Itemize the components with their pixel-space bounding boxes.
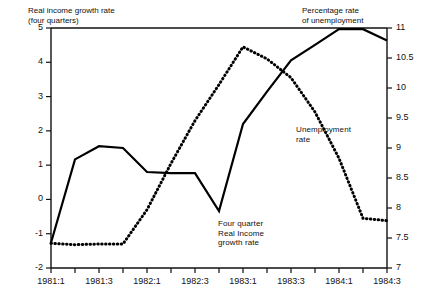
x-axis-tick-label: 1982:3	[175, 276, 215, 286]
unemployment-series-label: Unemployment rate	[296, 125, 351, 144]
right-axis-tick-label: 7.5	[396, 232, 409, 242]
chart-container: Real income growth rate (four quarters) …	[0, 0, 428, 306]
left-axis-tick-label: 2	[38, 125, 43, 135]
left-axis-tick-label: 4	[38, 56, 43, 66]
right-axis-tick-label: 7	[396, 262, 401, 272]
left-axis-tick-label: 5	[38, 22, 43, 32]
x-axis-tick-label: 1982:1	[127, 276, 167, 286]
left-axis-tick-label: -1	[35, 228, 43, 238]
x-axis-tick-label: 1984:1	[319, 276, 359, 286]
left-axis-tick-label: 0	[38, 193, 43, 203]
left-axis-tick-label: 3	[38, 91, 43, 101]
x-axis-tick-label: 1981:3	[79, 276, 119, 286]
right-axis-tick-label: 8.5	[396, 172, 409, 182]
right-axis-tick-label: 9	[396, 142, 401, 152]
right-axis-tick-label: 11	[396, 22, 405, 32]
left-axis-tick-label: -2	[35, 262, 43, 272]
real-income-series-label: Four quarter Real Income growth rate	[218, 219, 264, 248]
chart-plot	[0, 0, 428, 306]
x-axis-tick-label: 1984:3	[367, 276, 407, 286]
right-axis-title: Percentage rate of unemployment	[302, 6, 363, 25]
right-axis-tick-label: 9.5	[396, 112, 409, 122]
right-axis-tick-label: 10.5	[396, 52, 414, 62]
x-axis-tick-label: 1983:1	[223, 276, 263, 286]
x-axis-tick-label: 1983:3	[271, 276, 311, 286]
x-axis-tick-label: 1981:1	[31, 276, 71, 286]
right-axis-tick-label: 8	[396, 202, 401, 212]
right-axis-tick-label: 10	[396, 82, 406, 92]
left-axis-tick-label: 1	[38, 159, 43, 169]
